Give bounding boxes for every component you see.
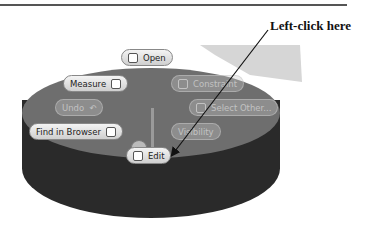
callout-arrow	[0, 0, 367, 228]
